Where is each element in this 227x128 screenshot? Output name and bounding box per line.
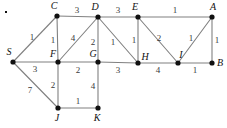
node-c[interactable] bbox=[54, 13, 59, 18]
node-label-b: B bbox=[217, 58, 223, 68]
edge-weight-s-j: 7 bbox=[28, 86, 33, 95]
node-label-h: H bbox=[141, 52, 148, 62]
node-e[interactable] bbox=[135, 14, 140, 19]
edge-c-f bbox=[57, 16, 58, 62]
edge-weight-d-h: 1 bbox=[111, 38, 116, 47]
weighted-graph-figure: 137314223213411124111SCDEAFGHIBJK bbox=[0, 0, 227, 128]
node-k[interactable] bbox=[95, 105, 100, 110]
node-label-s: S bbox=[7, 47, 12, 57]
edge-weight-h-i: 4 bbox=[156, 66, 161, 75]
edge-weight-c-d: 3 bbox=[75, 6, 80, 15]
edge-weight-s-f: 3 bbox=[33, 65, 38, 74]
node-j[interactable] bbox=[55, 105, 60, 110]
node-label-c: C bbox=[51, 1, 58, 11]
node-d[interactable] bbox=[95, 14, 100, 19]
edge-weight-s-c: 1 bbox=[30, 33, 35, 42]
edges-group bbox=[13, 16, 212, 108]
node-label-e: E bbox=[132, 2, 138, 12]
edge-weight-i-a: 1 bbox=[189, 34, 194, 43]
edge-weight-e-i: 2 bbox=[157, 34, 162, 43]
node-label-d: D bbox=[91, 2, 98, 12]
edge-weight-d-g: 2 bbox=[91, 38, 96, 47]
edge-weight-g-k: 4 bbox=[91, 82, 96, 91]
edge-c-d bbox=[57, 16, 98, 17]
node-label-j: J bbox=[55, 113, 59, 123]
node-a[interactable] bbox=[209, 14, 214, 19]
edge-weight-c-f: 1 bbox=[51, 36, 56, 45]
edge-weight-i-b: 1 bbox=[193, 66, 198, 75]
edge-weight-f-d: 4 bbox=[71, 34, 76, 43]
node-label-i: I bbox=[179, 50, 182, 60]
edge-weight-d-e: 3 bbox=[116, 6, 121, 15]
node-b[interactable] bbox=[209, 60, 214, 65]
node-h[interactable] bbox=[135, 60, 140, 65]
node-s[interactable] bbox=[10, 59, 15, 64]
edge-i-a bbox=[178, 17, 212, 63]
edge-weight-e-a: 1 bbox=[173, 6, 178, 15]
edge-weight-f-g: 2 bbox=[76, 66, 81, 75]
edge-weight-a-b: 1 bbox=[215, 36, 220, 45]
node-label-g: G bbox=[89, 49, 96, 59]
node-label-a: A bbox=[210, 2, 216, 12]
edge-weight-f-j: 2 bbox=[51, 81, 56, 90]
node-g[interactable] bbox=[95, 59, 100, 64]
node-label-f: F bbox=[50, 49, 56, 59]
node-f[interactable] bbox=[55, 59, 60, 64]
edge-weight-g-h: 3 bbox=[116, 66, 121, 75]
edge-g-h bbox=[98, 62, 138, 63]
edge-weight-j-k: 1 bbox=[76, 97, 81, 106]
node-i[interactable] bbox=[175, 60, 180, 65]
edge-weight-e-h: 1 bbox=[132, 36, 137, 45]
node-label-k: K bbox=[94, 113, 101, 123]
